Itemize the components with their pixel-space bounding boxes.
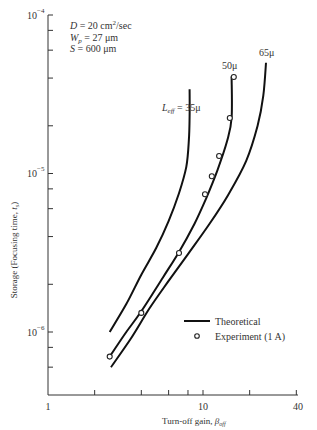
legend: Theoretical Experiment (1 A): [184, 316, 285, 343]
y-tick-exp: −5: [37, 165, 45, 173]
y-axis-title: Storage (Focusing time, ts): [9, 202, 20, 298]
y-tick-base: 10: [27, 10, 37, 21]
experiment-point: [209, 174, 214, 179]
curve-label-65: 65μ: [259, 47, 274, 58]
y-tick-base: 10: [27, 168, 37, 179]
y-tick-exp: −6: [37, 324, 45, 332]
y-tick-label-1e-4: 10 −4: [27, 7, 45, 21]
parameters-annotation: D = 20 cm2/sec Wp = 27 μm S = 600 μm: [69, 19, 132, 54]
experiment-point: [227, 116, 232, 121]
experiment-point: [217, 154, 222, 159]
experiment-point: [139, 310, 144, 315]
y-tick-label-1e-5: 10 −5: [27, 165, 45, 179]
y-tick-base: 10: [27, 327, 37, 338]
y-ticks: [48, 15, 53, 367]
curve-35u: [110, 89, 190, 332]
param-D: D = 20 cm2/sec: [69, 19, 132, 31]
curve-label-50: 50μ: [222, 60, 237, 71]
x-tick-label-40: 40: [293, 401, 303, 412]
y-tick-label-1e-6: 10 −6: [27, 324, 45, 338]
chart: 1 10 40 10 −4 10 −5 10 −6 Storage (Focus…: [0, 0, 317, 430]
legend-experiment: Experiment (1 A): [215, 331, 285, 343]
experiment-point: [231, 75, 236, 80]
legend-theoretical: Theoretical: [215, 316, 261, 327]
param-S: S = 600 μm: [70, 43, 117, 54]
experiment-point: [203, 192, 208, 197]
x-tick-label-1: 1: [46, 401, 51, 412]
x-ticks: [95, 390, 297, 395]
x-tick-label-10: 10: [198, 401, 208, 412]
experiment-point: [177, 251, 182, 256]
curve-label-35: Leff = 35μ: [161, 102, 201, 115]
legend-circle-icon: [195, 334, 200, 339]
y-tick-exp: −4: [37, 7, 45, 15]
experiment-point: [107, 354, 112, 359]
x-axis-title: Turn-off gain, βoff: [162, 416, 227, 427]
